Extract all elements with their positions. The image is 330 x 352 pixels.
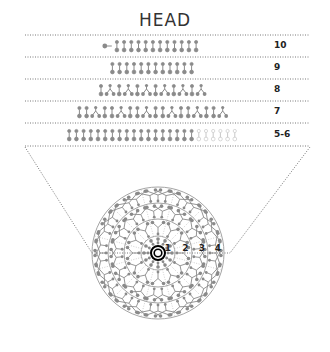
ring-label: 3 bbox=[199, 243, 205, 253]
glyph-row bbox=[78, 106, 229, 118]
glyph-row bbox=[99, 84, 206, 96]
core-bullseye-icon bbox=[151, 246, 165, 260]
ring-label: 4 bbox=[215, 243, 221, 253]
glyph-row bbox=[102, 40, 198, 51]
glyph-row bbox=[67, 129, 236, 141]
glyph-row bbox=[111, 62, 194, 74]
ring-label: 2 bbox=[182, 243, 188, 253]
diagram-canvas: 1234 bbox=[0, 0, 330, 352]
